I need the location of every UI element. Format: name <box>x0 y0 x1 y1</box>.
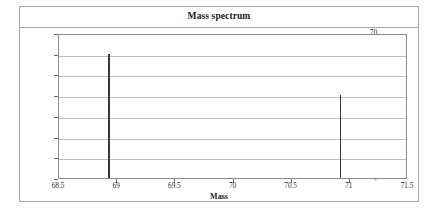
gridline <box>59 56 406 57</box>
gridline <box>59 76 406 77</box>
x-tick-label: 68.5 <box>38 183 78 190</box>
x-tick-label: 69.5 <box>154 183 194 190</box>
x-tick-label: 70.5 <box>271 183 311 190</box>
x-tick-label: 70 <box>213 183 253 190</box>
gridline <box>59 139 406 140</box>
x-tick-label: 69 <box>96 183 136 190</box>
chart-frame: Mass spectrum % abundance 01020304050607… <box>19 6 419 202</box>
gridline <box>59 118 406 119</box>
mass-spectrum-screenshot: Mass spectrum % abundance 01020304050607… <box>0 0 433 211</box>
x-axis-title: Mass <box>20 193 418 201</box>
bar <box>340 95 341 178</box>
x-tick-label: 71.5 <box>387 183 427 190</box>
plot-area <box>58 34 407 179</box>
y-tick-mark <box>54 179 58 180</box>
chart-title-bar: Mass spectrum <box>20 7 418 28</box>
page-title: Mass spectrum <box>188 12 251 22</box>
gridline <box>59 159 406 160</box>
bar <box>108 54 109 178</box>
x-tick-label: 71 <box>329 183 369 190</box>
gridline <box>59 97 406 98</box>
